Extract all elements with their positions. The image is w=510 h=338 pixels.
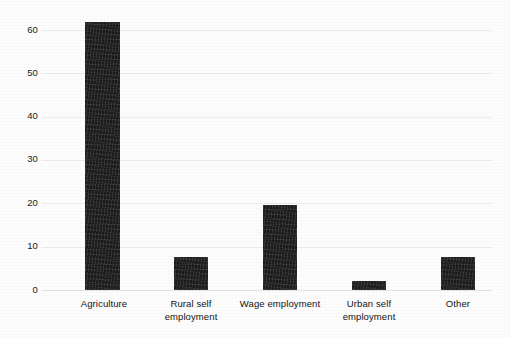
bar-wage-employment [263,205,297,290]
y-tick-60: 60 [10,25,38,35]
x-tick-other-line1: Other [398,298,510,311]
y-tick-50: 50 [10,68,38,78]
x-tick-other: Other [398,298,510,311]
x-axis: Agriculture Rural self employment Wage e… [42,298,492,338]
y-tick-40: 40 [10,111,38,121]
y-axis: 60 50 40 30 20 10 0 [4,30,38,290]
bar-rural-self-employment [174,257,208,290]
y-tick-30: 30 [10,154,38,164]
x-tick-urban-self-employment-line2: employment [309,311,429,324]
gridline-0 [42,290,492,291]
x-tick-rural-self-employment-line2: employment [131,311,251,324]
bar-chart-figure: 60 50 40 30 20 10 0 Agriculture Rural se… [0,0,510,338]
bar-other [441,257,475,290]
y-tick-20: 20 [10,198,38,208]
y-tick-0: 0 [10,285,38,295]
bar-urban-self-employment [352,281,386,290]
plot-area [42,30,492,290]
bar-agriculture [85,22,120,290]
y-tick-10: 10 [10,241,38,251]
